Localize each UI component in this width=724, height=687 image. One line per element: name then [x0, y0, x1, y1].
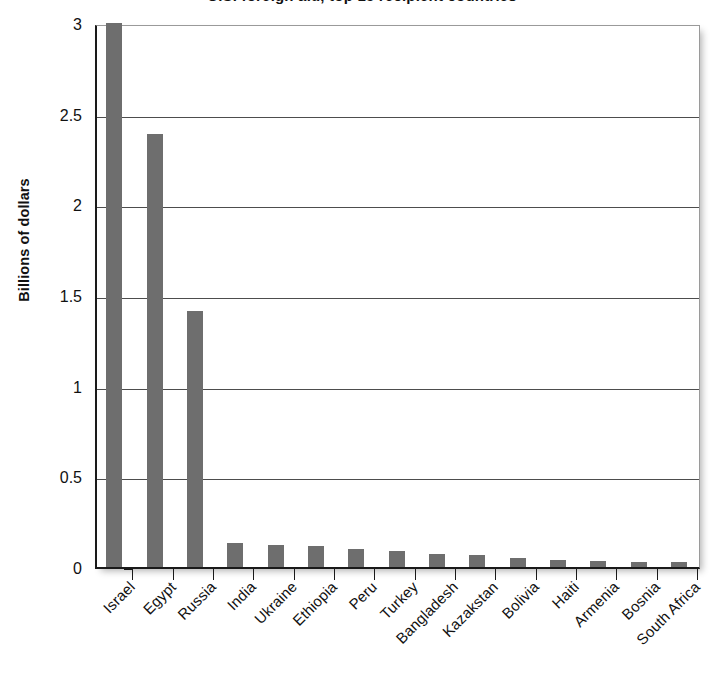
- y-axis-tick-label: 0.5: [38, 470, 82, 486]
- y-axis-title: Billions of dollars: [16, 130, 32, 350]
- bar: [389, 551, 405, 567]
- bar: [227, 543, 243, 567]
- plot-area: [95, 25, 700, 569]
- bar: [348, 549, 364, 567]
- bar: [631, 562, 647, 567]
- bar: [429, 554, 445, 567]
- y-axis-tick-labels: 00.511.522.53: [38, 25, 82, 569]
- bar: [671, 562, 687, 567]
- bars-layer: [97, 26, 699, 567]
- bar: [590, 561, 606, 567]
- bar: [187, 311, 203, 567]
- chart-title: U.S. foreign aid, top 15 recipient count…: [0, 0, 724, 4]
- bar: [469, 555, 485, 567]
- y-axis-tick-label: 0: [38, 561, 82, 577]
- x-axis-category-label: Egypt: [139, 578, 178, 617]
- x-axis-category-label: Russia: [174, 578, 219, 623]
- x-axis-category-labels: IsraelEgyptRussiaIndiaUkraineEthiopiaPer…: [0, 578, 724, 687]
- bar: [308, 546, 324, 567]
- bar: [106, 23, 122, 567]
- bar: [510, 558, 526, 567]
- y-axis-tick-label: 1.5: [38, 289, 82, 305]
- y-axis-tick-label: 2: [38, 198, 82, 214]
- x-axis-category-label: Bolivia: [498, 578, 542, 622]
- bar: [550, 560, 566, 567]
- x-axis-category-label: India: [224, 578, 259, 613]
- bar-chart-figure: U.S. foreign aid, top 15 recipient count…: [0, 0, 724, 687]
- bar: [268, 545, 284, 567]
- y-axis-tick-label: 1: [38, 380, 82, 396]
- y-axis-tick-label: 2.5: [38, 108, 82, 124]
- x-axis-category-label: Israel: [100, 578, 138, 616]
- y-axis-tick-label: 3: [38, 17, 82, 33]
- bar: [147, 134, 163, 567]
- x-axis-category-label: Peru: [345, 578, 380, 613]
- x-axis-category-label: Haiti: [548, 578, 582, 612]
